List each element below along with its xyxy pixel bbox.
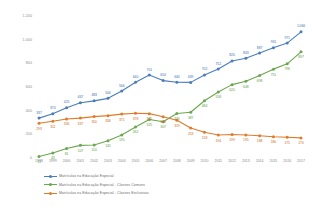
legend-item[interactable]: Matrículas na Educação Especial - Classe… (44, 189, 274, 197)
data-point[interactable] (300, 50, 303, 53)
data-point[interactable] (120, 90, 123, 93)
data-point[interactable] (231, 83, 234, 86)
data-label: 330 (64, 122, 70, 126)
legend-label: Matrículas na Educação Especial (59, 174, 114, 178)
data-point[interactable] (79, 101, 82, 104)
data-label: 701 (147, 68, 153, 72)
x-axis-tick: 2014 (256, 159, 264, 163)
data-label: 897 (298, 55, 304, 59)
data-point[interactable] (120, 133, 123, 136)
data-point[interactable] (258, 74, 261, 77)
data-point[interactable] (65, 117, 68, 120)
x-axis-tick: 2008 (173, 159, 181, 163)
legend-item[interactable]: Matrículas na Educação Especial (44, 172, 274, 180)
data-point[interactable] (300, 136, 303, 139)
data-point[interactable] (258, 134, 261, 137)
data-label: 293 (36, 127, 42, 131)
y-axis-tick: 600 (2, 85, 32, 89)
data-label: 887 (257, 46, 263, 50)
data-point[interactable] (148, 112, 151, 115)
data-point[interactable] (38, 122, 41, 125)
legend-item[interactable]: Matrículas na Educação Especial - Classe… (44, 181, 274, 189)
data-point[interactable] (175, 81, 178, 84)
data-point[interactable] (203, 131, 206, 134)
data-point[interactable] (286, 136, 289, 139)
data-point[interactable] (93, 143, 96, 146)
data-point[interactable] (79, 117, 82, 120)
data-label: 566 (119, 84, 125, 88)
data-point[interactable] (162, 79, 165, 82)
data-point[interactable] (106, 139, 109, 142)
data-label: 425 (64, 100, 70, 104)
data-point[interactable] (51, 112, 54, 115)
data-point[interactable] (272, 68, 275, 71)
data-point[interactable] (93, 99, 96, 102)
data-point[interactable] (134, 112, 137, 115)
x-axis-tick: 2015 (270, 159, 278, 163)
data-point[interactable] (79, 144, 82, 147)
x-axis-tick: 2012 (228, 159, 236, 163)
x-axis-tick: 2000 (63, 159, 71, 163)
data-point[interactable] (134, 125, 137, 128)
data-label: 640 (174, 75, 180, 79)
data-point[interactable] (244, 80, 247, 83)
data-point[interactable] (300, 30, 303, 33)
data-point[interactable] (148, 74, 151, 77)
data-point[interactable] (189, 81, 192, 84)
data-label: 348 (160, 120, 166, 124)
data-point[interactable] (162, 115, 165, 118)
data-point[interactable] (244, 133, 247, 136)
data-label: 843 (243, 51, 249, 55)
data-point[interactable] (38, 117, 41, 120)
data-point[interactable] (286, 62, 289, 65)
data-point[interactable] (203, 99, 206, 102)
data-point[interactable] (217, 68, 220, 71)
data-label: 504 (105, 91, 111, 95)
data-point[interactable] (217, 90, 220, 93)
data-label: 110 (92, 148, 97, 152)
data-label: 483 (91, 93, 97, 97)
data-point[interactable] (134, 81, 137, 84)
data-label: 194 (215, 139, 221, 143)
data-label: 639 (188, 75, 194, 79)
data-point[interactable] (231, 133, 234, 136)
data-point[interactable] (203, 73, 206, 76)
x-axis-tick: 2016 (283, 159, 291, 163)
data-point[interactable] (244, 57, 247, 60)
data-label: 107 (78, 149, 84, 153)
data-point[interactable] (65, 106, 68, 109)
data-label: 325 (147, 123, 153, 127)
chart-legend: Matrículas na Educação EspecialMatrícula… (44, 172, 274, 198)
legend-label: Matrículas na Educação Especial - Classe… (59, 183, 145, 187)
data-point[interactable] (51, 120, 54, 123)
x-axis-tick: 1998 (35, 159, 43, 163)
data-point[interactable] (93, 115, 96, 118)
data-point[interactable] (189, 111, 192, 114)
data-point[interactable] (38, 155, 41, 158)
data-label: 1.066 (297, 24, 305, 28)
plot-area: 3373744254674835045666407016546406397027… (34, 16, 306, 158)
data-point[interactable] (51, 151, 54, 154)
data-point[interactable] (231, 59, 234, 62)
y-axis-tick: 800 (2, 61, 32, 65)
legend-marker-icon (44, 173, 57, 179)
data-point[interactable] (217, 134, 220, 137)
data-label: 387 (188, 116, 194, 120)
data-point[interactable] (286, 42, 289, 45)
data-point[interactable] (189, 127, 192, 130)
data-point[interactable] (272, 46, 275, 49)
data-label: 378 (133, 117, 139, 121)
data-point[interactable] (106, 114, 109, 117)
data-point[interactable] (175, 112, 178, 115)
data-point[interactable] (65, 147, 68, 150)
data-point[interactable] (120, 113, 123, 116)
data-label: 311 (50, 125, 55, 129)
x-axis-tick: 2002 (90, 159, 98, 163)
data-point[interactable] (272, 135, 275, 138)
x-axis-tick: 1999 (49, 159, 57, 163)
data-label: 620 (229, 88, 235, 92)
data-point[interactable] (106, 97, 109, 100)
data-label: 337 (36, 111, 42, 115)
data-point[interactable] (258, 52, 261, 55)
data-label: 195 (243, 138, 249, 142)
